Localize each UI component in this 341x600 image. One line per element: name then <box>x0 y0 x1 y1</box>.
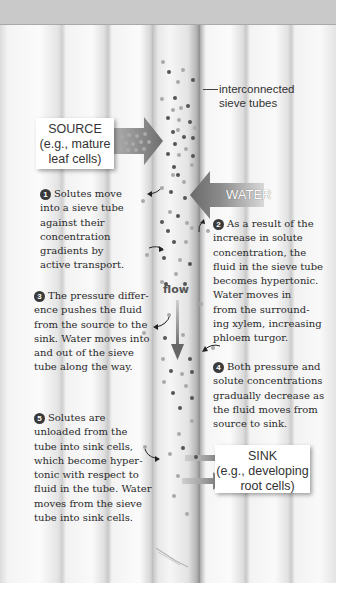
step-5-text: 5Solutes are unloaded from the tube into… <box>34 411 152 525</box>
step-2-text: 2As a result of the increase in solute c… <box>213 217 323 346</box>
source-label-box: SOURCE (e.g., mature leaf cells) <box>36 118 114 169</box>
sieve-tubes-leader-line <box>203 89 218 90</box>
step-1-text: 1Solutes move into a sieve tube against … <box>40 187 124 273</box>
water-label: WATER <box>226 187 272 202</box>
step-3-text: 3The pressure differ- ence pushes the fl… <box>34 289 150 375</box>
phloem-transport-diagram: interconnected sieve tubes SOURCE (e.g.,… <box>0 0 336 583</box>
step-1-badge: 1 <box>40 189 51 200</box>
step-2-badge: 2 <box>213 219 224 230</box>
step-4-text: 4Both pressure and solute concentrations… <box>213 360 324 431</box>
step-3-badge: 3 <box>34 291 45 302</box>
sink-label-box: SINK (e.g., developing root cells) <box>215 445 310 493</box>
flow-arrow-shaft <box>176 300 179 350</box>
flow-arrow-icon <box>171 344 184 360</box>
step-5-badge: 5 <box>34 413 45 424</box>
flow-label: flow <box>163 283 189 296</box>
step-4-badge: 4 <box>213 362 224 373</box>
sieve-tubes-label: interconnected sieve tubes <box>219 82 294 110</box>
